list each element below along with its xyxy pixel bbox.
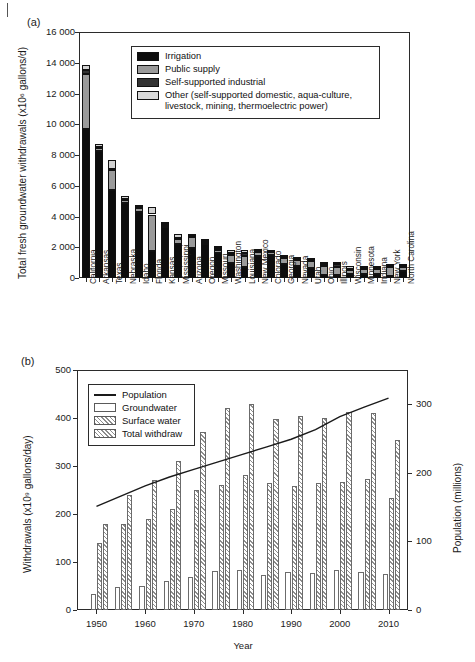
x-tick-mark xyxy=(192,278,193,282)
x-tick-mark xyxy=(99,278,100,282)
legend-item-surface-water: Surface water xyxy=(94,415,187,426)
y-tick-mark xyxy=(75,155,79,156)
bar-segment-other xyxy=(214,246,222,248)
bar-segment-public xyxy=(121,200,129,204)
y-tick-label: 400 xyxy=(37,412,71,423)
panel-a-y-axis-title: Total fresh groundwater withdrawals (x10… xyxy=(17,47,28,279)
panel-b-y2-axis-title: Population (millions) xyxy=(452,463,463,553)
y-tick-label: 200 xyxy=(37,508,71,519)
y-tick-label: 16 000 xyxy=(33,26,75,37)
bar-california xyxy=(82,65,90,278)
legend-label-surface-water: Surface water xyxy=(122,415,181,426)
panel-a: (a) Total fresh groundwater withdrawals … xyxy=(0,0,475,345)
x-tick-label: Arkansas xyxy=(102,250,111,284)
bar-segment-public xyxy=(148,215,156,251)
y2-tick-mark xyxy=(408,473,412,474)
panel-a-legend: Irrigation Public supply Self-supported … xyxy=(131,46,380,119)
bar-segment-public xyxy=(135,208,143,212)
x-tick-mark xyxy=(284,278,285,282)
bar-segment-other xyxy=(121,196,129,199)
x-tick-label: 1960 xyxy=(123,618,167,629)
x-tick-label: Nevada xyxy=(301,256,310,284)
x-tick-mark xyxy=(340,610,341,614)
y2-tick-label: 300 xyxy=(416,398,450,409)
x-tick-mark xyxy=(152,278,153,282)
legend-swatch-population xyxy=(94,390,116,399)
y-tick-label: 100 xyxy=(37,556,71,567)
legend-item-irrigation: Irrigation xyxy=(137,51,373,62)
panel-b-x-axis-title: Year xyxy=(183,640,303,651)
x-tick-mark xyxy=(350,278,351,282)
y-tick-mark xyxy=(73,610,77,611)
legend-swatch-other xyxy=(137,91,159,100)
legend-label-groundwater: Groundwater xyxy=(122,402,177,413)
panel-b-y-axis-title: Withdrawals (x10⁹ gallons/day) xyxy=(22,435,33,573)
bar-segment-public xyxy=(201,242,209,244)
x-tick-mark xyxy=(337,278,338,282)
legend-swatch-surface-water xyxy=(94,416,116,425)
x-tick-label: 2010 xyxy=(367,618,411,629)
y-tick-label: 10 000 xyxy=(33,118,75,129)
x-tick-label: North Carolina xyxy=(407,231,416,284)
legend-swatch-self-supported-industrial xyxy=(137,78,159,87)
y-tick-label: 6 000 xyxy=(33,180,75,191)
x-tick-mark xyxy=(377,278,378,282)
y2-tick-mark xyxy=(408,404,412,405)
bar-segment-other xyxy=(320,262,328,265)
y-tick-mark xyxy=(75,63,79,64)
legend-label-other-line2: livestock, mining, thermoelectric power) xyxy=(165,101,328,111)
x-tick-mark xyxy=(243,610,244,614)
x-tick-label: New York xyxy=(393,249,402,284)
x-tick-label: Oregon xyxy=(208,257,217,284)
bar-segment-other xyxy=(161,222,169,224)
legend-item-self-supported-industrial: Self-supported industrial xyxy=(137,77,373,88)
y-tick-label: 14 000 xyxy=(33,57,75,68)
x-tick-label: Illinois xyxy=(340,261,349,284)
x-tick-mark xyxy=(218,278,219,282)
legend-label-public-supply: Public supply xyxy=(165,64,220,75)
x-tick-mark xyxy=(86,278,87,282)
x-tick-label: 1950 xyxy=(74,618,118,629)
x-tick-label: 1980 xyxy=(221,618,265,629)
bar-segment-other xyxy=(148,207,156,214)
y-tick-mark xyxy=(75,278,79,279)
x-tick-mark xyxy=(403,278,404,282)
figure-page: (a) Total fresh groundwater withdrawals … xyxy=(0,0,475,662)
x-tick-label: Colorado xyxy=(274,251,283,284)
x-tick-label: 1970 xyxy=(172,618,216,629)
y-tick-mark xyxy=(75,217,79,218)
y-tick-label: 0 xyxy=(37,604,71,615)
legend-swatch-irrigation xyxy=(137,52,159,61)
y-tick-label: 8 000 xyxy=(33,149,75,160)
x-tick-label: Washington xyxy=(234,241,243,284)
x-tick-mark xyxy=(125,278,126,282)
x-tick-mark xyxy=(324,278,325,282)
x-tick-mark xyxy=(96,610,97,614)
legend-item-population: Population xyxy=(94,389,187,400)
bar-segment-public xyxy=(82,74,90,129)
legend-label-irrigation: Irrigation xyxy=(165,51,201,62)
legend-swatch-groundwater xyxy=(94,403,116,412)
x-tick-label: Kansas xyxy=(168,257,177,284)
y-tick-mark xyxy=(75,32,79,33)
y-tick-label: 2 000 xyxy=(33,241,75,252)
legend-swatch-public-supply xyxy=(137,65,159,74)
y-tick-mark xyxy=(75,94,79,95)
x-tick-label: Ohio xyxy=(327,267,336,284)
x-tick-label: Arizona xyxy=(195,256,204,284)
x-tick-mark xyxy=(271,278,272,282)
x-tick-mark xyxy=(390,278,391,282)
bar-segment-public xyxy=(161,225,169,227)
x-tick-mark xyxy=(165,278,166,282)
legend-swatch-total-withdraw xyxy=(94,429,116,438)
y-tick-mark xyxy=(75,124,79,125)
legend-label-total-withdraw: Total withdraw xyxy=(122,428,182,439)
x-tick-label: Georgia xyxy=(287,255,296,284)
x-tick-mark xyxy=(145,610,146,614)
legend-item-groundwater: Groundwater xyxy=(94,402,187,413)
x-tick-label: Wisconsin xyxy=(354,247,363,284)
panel-b-label: (b) xyxy=(21,355,34,367)
x-tick-mark xyxy=(311,278,312,282)
legend-item-public-supply: Public supply xyxy=(137,64,373,75)
y2-tick-label: 100 xyxy=(416,535,450,546)
